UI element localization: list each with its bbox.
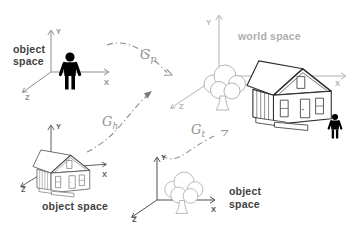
tree-space-label-line1: object [229,185,261,198]
gh-subscript: h [112,121,118,131]
gp-transform-label: Gp [140,47,156,62]
house-space-z-label: Z [21,186,26,194]
gh-transform-label: Gh [102,114,118,129]
gp-base: G [140,47,150,62]
tree-space-x-label: X [211,206,216,214]
tree-space-y-label: Y [161,154,166,162]
house-icon [33,150,90,197]
tree-icon [165,172,203,213]
gp-transform-arrow [107,43,167,73]
gt-base: G [191,122,201,137]
gp-subscript: p [150,54,156,64]
gt-transform-label: Gt [191,122,205,137]
gt-subscript: t [201,129,205,139]
tree-space-z-label: Z [132,216,137,224]
tree-icon [204,65,246,110]
house-space-y-label: Y [56,123,61,131]
house-icon [247,61,331,131]
person-space-z-axis [23,72,51,92]
person-space-y-label: Y [56,28,61,36]
tree-space-label: object space [229,185,261,210]
world-space-x-label: X [335,80,340,88]
person-space-x-label: X [104,79,109,87]
house-space-x-label: X [102,171,107,179]
world-space-label: world space [238,31,301,43]
coordinate-spaces-diagram: object space world space object space ob… [0,0,355,236]
transform-arrows [87,43,228,159]
tree-space-label-line2: space [229,198,261,211]
person-space-label-line2: space [13,56,45,68]
gh-base: G [102,114,112,129]
gt-transform-arrow [162,135,216,159]
person-space-label: object space [13,44,45,67]
world-space-z-label: Z [179,103,184,111]
person-icon [60,52,79,89]
world-space-y-label: Y [206,19,211,27]
person-space-z-label: Z [25,94,30,102]
gt-arrowhead [221,131,228,137]
house-space-label: object space [42,201,108,213]
person-space-label-line1: object [13,44,45,56]
